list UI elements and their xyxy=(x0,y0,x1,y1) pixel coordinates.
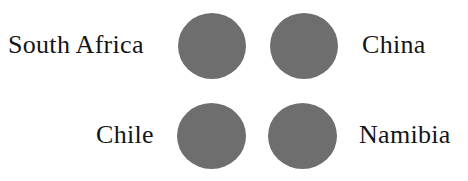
swatch-row-bottom: Chile Namibia xyxy=(0,91,468,181)
swatch-circle-south-africa xyxy=(178,13,246,79)
label-namibia: Namibia xyxy=(359,122,451,148)
swatch-circle-chile xyxy=(177,103,246,169)
swatch-circle-namibia xyxy=(268,103,337,169)
label-chile: Chile xyxy=(96,122,154,148)
label-south-africa: South Africa xyxy=(8,32,144,58)
label-china: China xyxy=(362,32,426,58)
swatch-row-top: South Africa China xyxy=(0,0,468,90)
swatch-circle-china xyxy=(270,13,338,79)
country-swatch-figure: South Africa China Chile Namibia xyxy=(0,0,468,181)
